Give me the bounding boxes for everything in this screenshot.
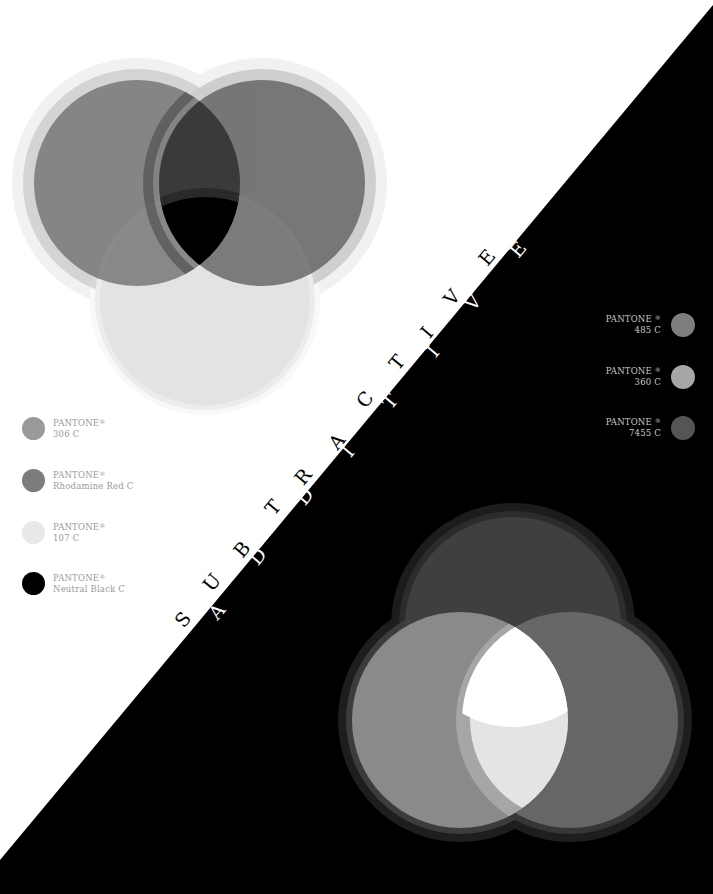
swatch-dot-icon: [671, 416, 695, 440]
swatch-label: PANTONE ®485 C: [606, 314, 661, 336]
swatch-dot-icon: [22, 521, 45, 544]
swatch-dot-icon: [22, 417, 45, 440]
swatch-107c: PANTONE®107 C: [22, 521, 105, 544]
swatch-dot-icon: [671, 313, 695, 337]
swatch-label: PANTONE®Rhodamine Red C: [53, 470, 134, 492]
swatch-360c: PANTONE ®360 C: [606, 365, 695, 389]
swatch-label: PANTONE ®7455 C: [606, 417, 661, 439]
swatch-label: PANTONE®306 C: [53, 418, 105, 440]
swatch-dot-icon: [22, 469, 45, 492]
color-theory-poster: PANTONE®306 C PANTONE®Rhodamine Red C PA…: [0, 0, 713, 894]
swatch-485c: PANTONE ®485 C: [606, 313, 695, 337]
swatch-306c: PANTONE®306 C: [22, 417, 105, 440]
swatch-label: PANTONE ®360 C: [606, 366, 661, 388]
swatch-dot-icon: [22, 572, 45, 595]
swatch-label: PANTONE®107 C: [53, 522, 105, 544]
swatch-rhodamine-red-c: PANTONE®Rhodamine Red C: [22, 469, 134, 492]
swatch-label: PANTONE®Neutral Black C: [53, 573, 125, 595]
swatch-7455c: PANTONE ®7455 C: [606, 416, 695, 440]
swatch-neutral-black-c: PANTONE®Neutral Black C: [22, 572, 125, 595]
swatch-dot-icon: [671, 365, 695, 389]
